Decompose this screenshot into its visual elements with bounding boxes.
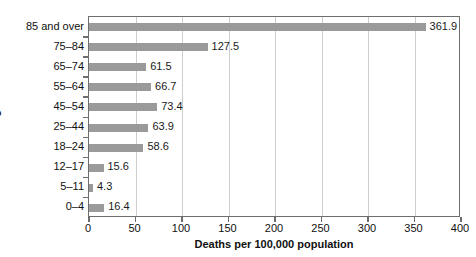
bar[interactable] <box>89 184 93 192</box>
x-axis-tick-label: 0 <box>85 222 91 234</box>
bar-row: 361.9 <box>89 17 461 37</box>
y-axis-category-label: 25–44 <box>0 120 84 132</box>
bar[interactable] <box>89 63 146 71</box>
x-axis-tick-label: 250 <box>311 222 329 234</box>
bar[interactable] <box>89 164 104 172</box>
x-axis-tick-label: 350 <box>404 222 422 234</box>
bar-row: 61.5 <box>89 57 461 77</box>
bar-value-label: 4.3 <box>97 180 112 192</box>
bar[interactable] <box>89 83 151 91</box>
bar-value-label: 16.4 <box>108 200 129 212</box>
x-axis-tick-label: 200 <box>265 222 283 234</box>
bar[interactable] <box>89 23 426 31</box>
x-axis-tick-label: 100 <box>172 222 190 234</box>
bar[interactable] <box>89 103 157 111</box>
y-axis-category-label: 12–17 <box>0 160 84 172</box>
bar-row: 4.3 <box>89 178 461 198</box>
bar-row: 15.6 <box>89 158 461 178</box>
bar-value-label: 61.5 <box>150 60 171 72</box>
bar-row: 58.6 <box>89 138 461 158</box>
x-axis-tick-label: 50 <box>128 222 140 234</box>
y-axis-category-label: 0–4 <box>0 200 84 212</box>
bar-row: 63.9 <box>89 118 461 138</box>
y-axis-category-label: 45–54 <box>0 100 84 112</box>
y-axis-category-label: 18–24 <box>0 140 84 152</box>
bar-value-label: 58.6 <box>147 140 168 152</box>
bar-row: 127.5 <box>89 37 461 57</box>
bar[interactable] <box>89 204 104 212</box>
x-axis-title: Deaths per 100,000 population <box>88 238 460 250</box>
bar[interactable] <box>89 43 208 51</box>
bar-value-label: 73.4 <box>161 100 182 112</box>
bar-value-label: 15.6 <box>108 160 129 172</box>
bar-row: 16.4 <box>89 198 461 218</box>
x-axis-tick-label: 300 <box>358 222 376 234</box>
y-axis-category-label: 85 and over <box>0 20 84 32</box>
bar-value-label: 66.7 <box>155 80 176 92</box>
x-axis-tick-label: 400 <box>451 222 469 234</box>
x-axis-tick-labels: 050100150200250300350400 <box>88 222 460 236</box>
x-axis-tick-label: 150 <box>218 222 236 234</box>
plot-area: 16.44.315.658.663.973.466.761.5127.5361.… <box>88 16 460 217</box>
bar-value-label: 127.5 <box>212 40 240 52</box>
y-axis-labels: 0–45–1112–1718–2425–4445–5455–6465–7475–… <box>0 16 84 217</box>
bar-row: 66.7 <box>89 77 461 97</box>
bar-value-label: 63.9 <box>152 120 173 132</box>
y-axis-category-label: 75–84 <box>0 40 84 52</box>
bar-value-label: 361.9 <box>430 20 458 32</box>
bar-row: 73.4 <box>89 97 461 117</box>
bar[interactable] <box>89 144 143 152</box>
y-axis-category-label: 55–64 <box>0 80 84 92</box>
bar[interactable] <box>89 124 148 132</box>
y-axis-category-label: 5–11 <box>0 180 84 192</box>
y-axis-category-label: 65–74 <box>0 60 84 72</box>
chart-title-cropped <box>0 0 476 8</box>
